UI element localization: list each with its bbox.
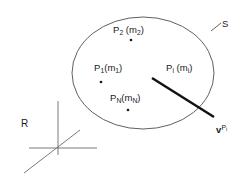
particle-dot-p1 — [100, 81, 103, 84]
velocity-vector-segment — [152, 78, 214, 117]
particle-label-pi: Pi (mi) — [166, 63, 192, 73]
surface-label-leader-line — [211, 23, 221, 31]
particle-label-p2: P2 (m2) — [113, 25, 144, 35]
particle-dot-p2 — [130, 39, 133, 42]
particle-label-p1: P1(m1) — [94, 63, 122, 73]
figure-canvas: S P2 (m2) P1(m1) Pi (mi) PN(mN) vPi R — [0, 0, 251, 176]
particle-label-pn: PN(mN) — [110, 93, 141, 103]
velocity-label: vPi — [216, 125, 227, 135]
frame-axis-diagonal — [24, 130, 80, 173]
frame-label-r: R — [21, 119, 28, 129]
particle-dot-pn — [127, 109, 130, 112]
surface-label: S — [222, 19, 228, 29]
